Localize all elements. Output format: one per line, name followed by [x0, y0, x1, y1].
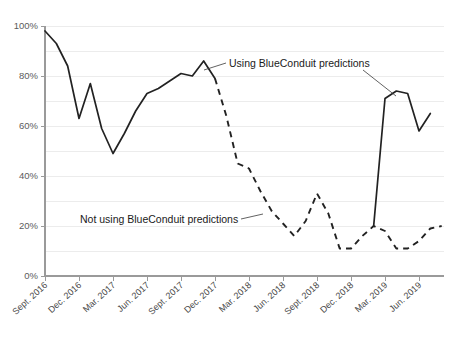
x-tick-label-11: Jun. 2019 — [387, 280, 423, 314]
y-tick-label-100: 100% — [14, 20, 39, 31]
series-using-predictions-late — [374, 91, 431, 226]
x-tick-label-0: Sept. 2016 — [10, 280, 49, 317]
x-axis: Sept. 2016 Dec. 2016 Mar. 2017 Jun. 2017… — [10, 276, 444, 317]
annotation-not-using-label: Not using BlueConduit predictions — [80, 213, 238, 225]
x-tick-label-1: Dec. 2016 — [46, 280, 83, 315]
x-tick-label-2: Mar. 2017 — [81, 280, 117, 314]
annotation-using-label: Using BlueConduit predictions — [229, 57, 370, 69]
y-tick-label-0: 0% — [24, 270, 38, 281]
y-tick-label-20: 20% — [19, 220, 39, 231]
series-not-using-predictions — [215, 79, 442, 249]
x-tick-label-6: Mar. 2018 — [217, 280, 253, 314]
annotation-not-using: Not using BlueConduit predictions — [80, 213, 263, 225]
series-using-predictions-early — [45, 31, 215, 154]
x-tick-label-10: Mar. 2019 — [353, 280, 389, 314]
y-tick-label-80: 80% — [19, 70, 39, 81]
line-chart: 100% 80% 60% 40% 20% 0% Sept. 2016 Dec. … — [0, 0, 457, 342]
chart-container: 100% 80% 60% 40% 20% 0% Sept. 2016 Dec. … — [0, 0, 457, 342]
y-tick-label-60: 60% — [19, 120, 39, 131]
x-tick-label-8: Sept. 2018 — [282, 280, 321, 317]
x-tick-label-5: Dec. 2017 — [182, 280, 219, 315]
x-tick-label-9: Dec. 2018 — [318, 280, 355, 315]
x-tick-label-4: Sept. 2017 — [146, 280, 185, 317]
y-tick-label-40: 40% — [19, 170, 39, 181]
y-axis: 100% 80% 60% 40% 20% 0% — [14, 20, 45, 281]
